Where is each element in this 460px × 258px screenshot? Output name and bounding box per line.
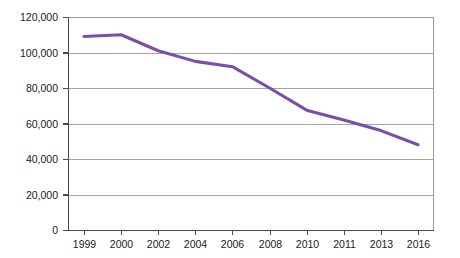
x-tick-label: 2008 — [259, 238, 283, 250]
chart-canvas: 020,00040,00060,00080,000100,000120,0001… — [0, 0, 460, 258]
x-tick-label: 2016 — [407, 238, 431, 250]
x-tick-label: 2002 — [147, 238, 171, 250]
x-tick-label: 2013 — [370, 238, 394, 250]
data-series-line — [84, 35, 418, 145]
line-chart: 020,00040,00060,00080,000100,000120,0001… — [0, 0, 460, 258]
y-tick-label: 60,000 — [26, 118, 58, 130]
y-tick-label: 0 — [52, 224, 58, 236]
y-tick-label: 40,000 — [26, 153, 58, 165]
x-tick-label: 2000 — [110, 238, 134, 250]
y-tick-label: 80,000 — [26, 82, 58, 94]
y-tick-label: 120,000 — [20, 11, 58, 23]
x-tick-label: 2004 — [184, 238, 208, 250]
x-tick-label: 2006 — [221, 238, 245, 250]
x-tick-label: 1999 — [73, 238, 97, 250]
y-tick-label: 20,000 — [26, 189, 58, 201]
x-tick-label: 2011 — [333, 238, 356, 250]
x-tick-label: 2010 — [296, 238, 320, 250]
y-tick-label: 100,000 — [20, 47, 58, 59]
